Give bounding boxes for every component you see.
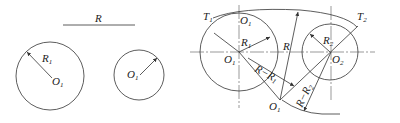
circle-2 — [114, 50, 164, 100]
given-radius: R — [63, 12, 135, 25]
r1-label: R1 — [240, 36, 251, 50]
radius-r1-label: R1 — [41, 52, 52, 66]
radius-r-arrow — [280, 12, 298, 100]
r-minus-r2-dimension — [304, 52, 331, 111]
o2-center-label: O2 — [332, 53, 344, 67]
radius-r-label: R — [94, 12, 102, 24]
given-circle-2: O1 — [114, 50, 164, 100]
r2-label: R2 — [322, 34, 334, 48]
t2-label: T2 — [357, 10, 367, 24]
arc-center-o1-label: O1 — [269, 100, 280, 114]
geometry-diagram: R R1 O1 O1 — [0, 0, 400, 123]
t1-label: T1 — [203, 10, 213, 24]
o1-top-label: O1 — [240, 14, 251, 28]
o1-center-label: O1 — [224, 53, 235, 67]
o1-to-t2-line — [280, 26, 358, 100]
center-o2-label: O1 — [127, 68, 138, 82]
r-label: R — [282, 40, 290, 52]
locus-arc-bottom — [282, 100, 340, 114]
t1-line — [214, 33, 239, 52]
center-o1-label: O1 — [52, 75, 63, 89]
given-circle-1: R1 O1 — [16, 42, 84, 110]
r-minus-r2-label: R−R2 — [293, 81, 317, 110]
construction: T1 O1 R1 O1 R R−R1 O1 R2 O2 T2 R−R2 — [190, 5, 375, 114]
radius-r2-arrow — [140, 58, 157, 75]
